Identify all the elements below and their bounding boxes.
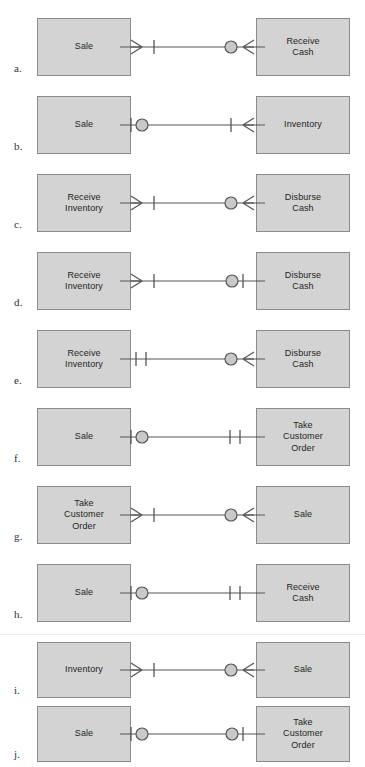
entity-label-left: Sale (75, 41, 93, 53)
entity-label-right: Inventory (284, 119, 322, 131)
er-diagram-row: e.Receive InventoryDisburse Cash (0, 330, 365, 388)
entity-label-right: Take Customer Order (283, 717, 323, 752)
entity-label-left: Take Customer Order (64, 498, 104, 533)
entity-box-left[interactable]: Sale (37, 96, 131, 154)
entity-label-left: Receive Inventory (65, 348, 103, 371)
relationship-connector (120, 183, 265, 223)
entity-box-left[interactable]: Receive Inventory (37, 330, 131, 388)
entity-label-left: Receive Inventory (65, 192, 103, 215)
er-diagram-row: b.SaleInventory (0, 96, 365, 154)
er-diagram-row: j.SaleTake Customer Order (0, 706, 365, 762)
entity-label-right: Disburse Cash (285, 348, 321, 371)
relationship-connector (120, 339, 265, 379)
entity-label-right: Sale (294, 664, 312, 676)
entity-label-left: Sale (75, 119, 93, 131)
entity-box-right[interactable]: Take Customer Order (256, 408, 350, 466)
relationship-connector (120, 714, 265, 754)
entity-label-right: Receive Cash (286, 582, 319, 605)
entity-label-left: Inventory (65, 664, 103, 676)
row-label-a: a. (14, 62, 22, 74)
entity-label-right: Disburse Cash (285, 270, 321, 293)
relationship-connector (120, 495, 265, 535)
entity-label-left: Sale (75, 587, 93, 599)
entity-label-left: Sale (75, 728, 93, 740)
entity-box-right[interactable]: Sale (256, 642, 350, 698)
entity-box-left[interactable]: Receive Inventory (37, 174, 131, 232)
relationship-connector (120, 27, 265, 67)
entity-box-right[interactable]: Receive Cash (256, 18, 350, 76)
er-diagram-row: c.Receive InventoryDisburse Cash (0, 174, 365, 232)
row-label-g: g. (14, 530, 23, 542)
entity-box-right[interactable]: Disburse Cash (256, 252, 350, 310)
relationship-connector (120, 105, 265, 145)
relationship-connector (120, 573, 265, 613)
er-diagram-list: a.SaleReceive Cashb.SaleInventoryc.Recei… (0, 0, 365, 767)
er-diagram-row: h.SaleReceive Cash (0, 564, 365, 622)
entity-label-right: Disburse Cash (285, 192, 321, 215)
row-label-f: f. (14, 452, 21, 464)
entity-box-right[interactable]: Inventory (256, 96, 350, 154)
entity-box-right[interactable]: Disburse Cash (256, 330, 350, 388)
entity-box-right[interactable]: Sale (256, 486, 350, 544)
entity-label-right: Sale (294, 509, 312, 521)
relationship-connector (120, 261, 265, 301)
entity-box-left[interactable]: Inventory (37, 642, 131, 698)
er-diagram-row: d.Receive InventoryDisburse Cash (0, 252, 365, 310)
row-label-e: e. (14, 374, 22, 386)
row-label-d: d. (14, 296, 23, 308)
row-label-c: c. (14, 218, 22, 230)
er-diagram-row: g.Take Customer OrderSale (0, 486, 365, 544)
row-label-b: b. (14, 140, 23, 152)
entity-label-right: Receive Cash (286, 36, 319, 59)
row-label-i: i. (14, 684, 20, 696)
entity-box-left[interactable]: Sale (37, 18, 131, 76)
relationship-connector (120, 650, 265, 690)
entity-box-left[interactable]: Sale (37, 408, 131, 466)
entity-label-right: Take Customer Order (283, 420, 323, 455)
entity-box-left[interactable]: Sale (37, 706, 131, 762)
entity-box-right[interactable]: Take Customer Order (256, 706, 350, 762)
entity-label-left: Receive Inventory (65, 270, 103, 293)
entity-box-right[interactable]: Receive Cash (256, 564, 350, 622)
entity-label-left: Sale (75, 431, 93, 443)
entity-box-left[interactable]: Receive Inventory (37, 252, 131, 310)
er-diagram-row: i.InventorySale (0, 642, 365, 698)
entity-box-left[interactable]: Sale (37, 564, 131, 622)
relationship-connector (120, 417, 265, 457)
er-diagram-row: a.SaleReceive Cash (0, 18, 365, 76)
row-label-h: h. (14, 608, 23, 620)
row-label-j: j. (14, 748, 20, 760)
entity-box-left[interactable]: Take Customer Order (37, 486, 131, 544)
entity-box-right[interactable]: Disburse Cash (256, 174, 350, 232)
er-diagram-row: f.SaleTake Customer Order (0, 408, 365, 466)
